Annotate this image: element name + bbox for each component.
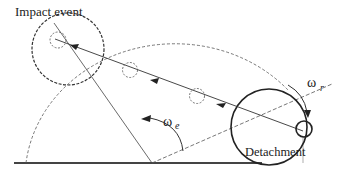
omega-e-subscript: e: [175, 120, 180, 131]
impact-event-label: Impact event: [15, 4, 83, 19]
impact-diagram: Impact event Detachment ω r ω e: [0, 0, 337, 173]
ball-position-mid-2: [190, 89, 205, 104]
detachment-label: Detachment: [245, 145, 306, 159]
ball-position-mid-1: [123, 63, 138, 78]
trajectory-line: [55, 39, 303, 131]
omega-r-subscript: r: [320, 82, 324, 93]
omega-r-symbol: ω: [307, 75, 316, 90]
omega-e-symbol: ω: [163, 114, 172, 129]
arrow-head-icon: [150, 78, 159, 84]
omega-e-arrow-icon: [141, 115, 151, 122]
omega-r-arc: [288, 85, 307, 112]
drum-circle-impact: [32, 13, 104, 85]
arrow-head-icon: [216, 103, 226, 108]
